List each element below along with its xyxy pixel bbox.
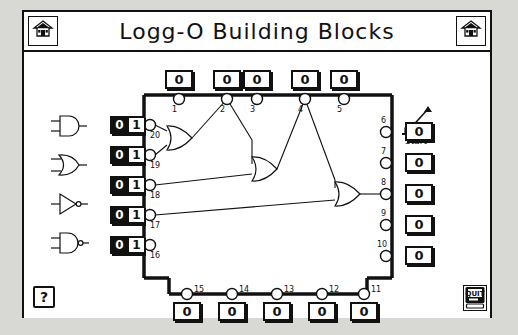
node-label-14: 14 — [239, 286, 249, 294]
input-switch-20[interactable]: 0 1 — [110, 116, 144, 134]
switch-off-state[interactable]: 0 — [112, 118, 127, 132]
value-box-15[interactable]: 0 — [173, 302, 201, 321]
home-icon — [457, 20, 485, 38]
work-area: Start — [24, 52, 490, 318]
switch-on-state[interactable]: 1 — [127, 238, 144, 252]
switch-off-state[interactable]: 0 — [112, 238, 127, 252]
value-box-11[interactable]: 0 — [350, 302, 378, 321]
value-box-6[interactable]: 0 — [405, 122, 433, 141]
value-box-3[interactable]: 0 — [243, 70, 271, 89]
switch-on-state[interactable]: 1 — [127, 178, 144, 192]
home-button-right[interactable] — [456, 16, 486, 46]
placed-gate-or-1 — [167, 126, 192, 150]
value-box-8[interactable]: 0 — [405, 184, 433, 203]
input-switch-19[interactable]: 0 1 — [110, 146, 144, 164]
input-switch-17[interactable]: 0 1 — [110, 206, 144, 224]
node-label-6: 6 — [381, 117, 386, 125]
node-label-17: 17 — [150, 222, 160, 230]
help-button[interactable]: ? — [33, 286, 55, 308]
switch-on-state[interactable]: 1 — [127, 208, 144, 222]
node-label-2: 2 — [220, 106, 225, 114]
value-box-7[interactable]: 0 — [405, 153, 433, 172]
node-label-16: 16 — [150, 252, 160, 260]
placed-gate-or-3 — [335, 182, 360, 206]
switch-on-state[interactable]: 1 — [127, 118, 144, 132]
app-root: Logg-O Building Blocks — [0, 0, 518, 335]
main-window: Logg-O Building Blocks — [22, 10, 492, 318]
node-label-19: 19 — [150, 162, 160, 170]
switch-on-state[interactable]: 1 — [127, 148, 144, 162]
page-title: Logg-O Building Blocks — [24, 12, 490, 52]
value-box-4[interactable]: 0 — [291, 70, 319, 89]
value-box-2[interactable]: 0 — [213, 70, 241, 89]
switch-off-state[interactable]: 0 — [112, 178, 127, 192]
value-box-12[interactable]: 0 — [308, 302, 336, 321]
input-switch-18[interactable]: 0 1 — [110, 176, 144, 194]
macintosh-icon: QUIT — [464, 296, 486, 313]
node-label-3: 3 — [250, 106, 255, 114]
node-label-5: 5 — [337, 106, 342, 114]
node-label-9: 9 — [381, 210, 386, 218]
node-label-11: 11 — [371, 286, 381, 294]
value-box-14[interactable]: 0 — [218, 302, 246, 321]
switch-off-state[interactable]: 0 — [112, 148, 127, 162]
node-label-13: 13 — [284, 286, 294, 294]
value-box-5[interactable]: 0 — [330, 70, 358, 89]
node-label-8: 8 — [381, 179, 386, 187]
node-label-1: 1 — [172, 106, 177, 114]
value-box-1[interactable]: 0 — [165, 70, 193, 89]
value-box-9[interactable]: 0 — [405, 215, 433, 234]
value-box-13[interactable]: 0 — [263, 302, 291, 321]
svg-text:QUIT: QUIT — [465, 290, 484, 298]
value-box-10[interactable]: 0 — [405, 246, 433, 265]
input-switch-16[interactable]: 0 1 — [110, 236, 144, 254]
placed-gate-or-2 — [252, 157, 277, 181]
quit-button[interactable]: QUIT — [463, 285, 487, 311]
node-label-12: 12 — [329, 286, 339, 294]
switch-off-state[interactable]: 0 — [112, 208, 127, 222]
node-label-10: 10 — [377, 241, 387, 249]
title-bar: Logg-O Building Blocks — [24, 12, 490, 52]
node-label-7: 7 — [381, 148, 386, 156]
node-label-4: 4 — [298, 106, 303, 114]
node-label-15: 15 — [194, 286, 204, 294]
node-label-18: 18 — [150, 192, 160, 200]
node-label-20: 20 — [150, 132, 160, 140]
